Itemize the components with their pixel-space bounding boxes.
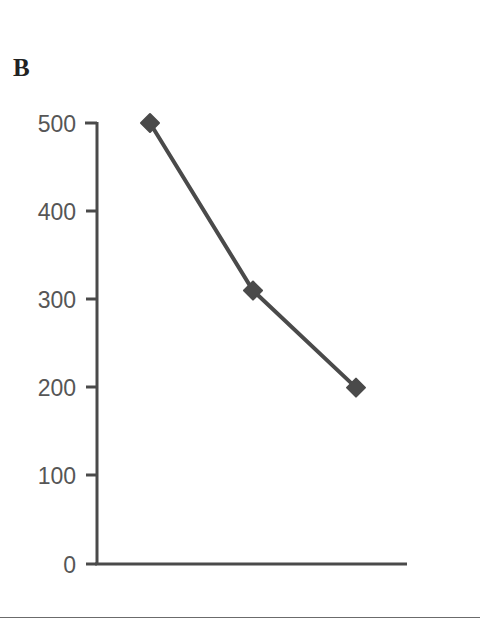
figure-panel: B 500 400 300 200 100 0 xyxy=(0,0,480,627)
y-tick-label-400: 400 xyxy=(38,199,76,225)
data-point-marker xyxy=(141,114,159,132)
line-chart: 500 400 300 200 100 0 xyxy=(0,0,480,627)
y-tick-label-300: 300 xyxy=(38,287,76,313)
bottom-divider xyxy=(0,617,480,618)
y-tick-label-200: 200 xyxy=(38,375,76,401)
y-tick-label-100: 100 xyxy=(38,463,76,489)
y-tick-label-500: 500 xyxy=(38,111,76,137)
data-series-group xyxy=(141,114,365,397)
series-line xyxy=(150,123,356,388)
y-tick-label-0: 0 xyxy=(63,552,76,578)
series-markers xyxy=(141,114,365,397)
